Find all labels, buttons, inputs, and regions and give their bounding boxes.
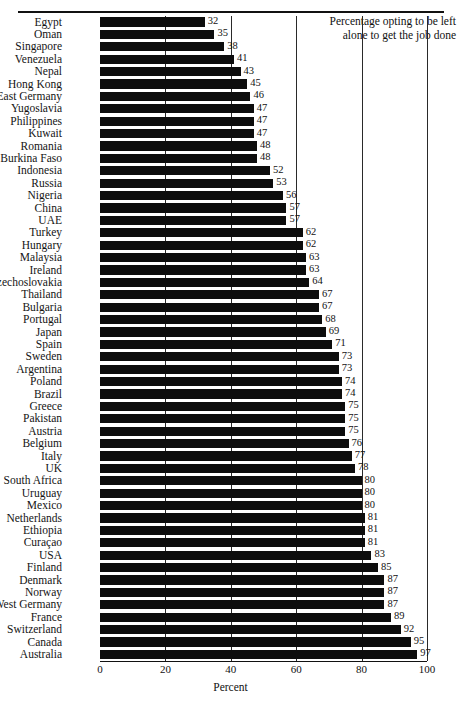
bar-row: Portugal68 [100, 314, 427, 326]
bar [100, 650, 417, 659]
category-label: Australia [0, 648, 62, 660]
category-label: Switzerland [0, 623, 62, 635]
bar-row: Egypt32 [100, 16, 427, 28]
bar-row: Argentina73 [100, 363, 427, 375]
bar-value-label: 74 [342, 375, 356, 387]
bar-row: Hungary62 [100, 239, 427, 251]
bar-value-label: 56 [283, 189, 297, 201]
category-label: Thailand [0, 288, 62, 300]
category-label: East Germany [0, 90, 62, 102]
bar [100, 129, 254, 138]
bar-value-label: 67 [319, 300, 333, 312]
bar [100, 79, 247, 88]
bar-value-label: 46 [250, 89, 264, 101]
bar-value-label: 48 [257, 151, 271, 163]
bar-row: Indonesia52 [100, 165, 427, 177]
bar-row: Belgium76 [100, 438, 427, 450]
category-label: Philippines [0, 115, 62, 127]
bar-row: UK78 [100, 462, 427, 474]
category-label: Finland [0, 561, 62, 573]
category-label: Italy [0, 450, 62, 462]
bar [100, 253, 306, 262]
bar [100, 17, 205, 26]
bar [100, 637, 411, 646]
category-label: Poland [0, 375, 62, 387]
bar-value-label: 83 [371, 548, 385, 560]
bar [100, 625, 401, 634]
bar-value-label: 41 [234, 52, 248, 64]
category-label: Sweden [0, 350, 62, 362]
bar [100, 303, 319, 312]
bar [100, 377, 342, 386]
plot-area: Egypt32Oman35Singapore38Venezuela41Nepal… [100, 16, 427, 661]
bar-value-label: 73 [339, 362, 353, 374]
category-label: Austria [0, 425, 62, 437]
bar-value-label: 64 [309, 275, 323, 287]
bar-row: Nigeria56 [100, 190, 427, 202]
bar-value-label: 38 [224, 40, 238, 52]
bar [100, 92, 250, 101]
bar-value-label: 80 [362, 486, 376, 498]
category-label: Venezuela [0, 53, 62, 65]
bar-row: China57 [100, 202, 427, 214]
bar-row: Australia97 [100, 648, 427, 660]
bar-value-label: 71 [332, 337, 346, 349]
category-label: Hungary [0, 239, 62, 251]
bar-value-label: 67 [319, 288, 333, 300]
category-label: Denmark [0, 574, 62, 586]
bar [100, 265, 306, 274]
bar-value-label: 57 [286, 201, 300, 213]
bar-row: Malaysia63 [100, 252, 427, 264]
category-label: Czechoslovakia [0, 276, 62, 288]
category-label: Nigeria [0, 189, 62, 201]
x-tick-60: 60 [291, 663, 302, 675]
bar [100, 327, 326, 336]
x-tick-80: 80 [356, 663, 367, 675]
category-label: South Africa [0, 474, 62, 486]
x-tick-20: 20 [160, 663, 171, 675]
category-label: Netherlands [0, 512, 62, 524]
category-label: Argentina [0, 363, 62, 375]
bar-row: West Germany87 [100, 599, 427, 611]
bar-value-label: 75 [345, 424, 359, 436]
bar-value-label: 47 [254, 102, 268, 114]
category-label: Brazil [0, 388, 62, 400]
bar-value-label: 62 [303, 226, 317, 238]
bar-value-label: 76 [349, 437, 363, 449]
bar-value-label: 80 [362, 499, 376, 511]
bar-value-label: 73 [339, 350, 353, 362]
bar-value-label: 32 [205, 15, 219, 27]
bar [100, 315, 322, 324]
category-label: Mexico [0, 499, 62, 511]
bar-value-label: 97 [417, 647, 431, 659]
category-label: Canada [0, 636, 62, 648]
category-label: Hong Kong [0, 78, 62, 90]
category-label: Ethiopia [0, 524, 62, 536]
x-axis-line [100, 661, 427, 662]
bar-value-label: 62 [303, 238, 317, 250]
category-label: China [0, 202, 62, 214]
bar [100, 501, 362, 510]
bar [100, 427, 345, 436]
category-label: Yugoslavia [0, 102, 62, 114]
category-label: France [0, 611, 62, 623]
bar [100, 513, 365, 522]
bar-value-label: 95 [411, 635, 425, 647]
bar-row: Turkey62 [100, 227, 427, 239]
bar [100, 613, 391, 622]
x-axis-label: Percent [0, 681, 461, 693]
bar-row: Bulgaria67 [100, 301, 427, 313]
bar-row: Ireland63 [100, 264, 427, 276]
bar [100, 526, 365, 535]
category-label: Japan [0, 326, 62, 338]
category-label: Belgium [0, 437, 62, 449]
category-label: Singapore [0, 40, 62, 52]
bar-value-label: 48 [257, 139, 271, 151]
bar-row: Nepal43 [100, 66, 427, 78]
bar-row: Pakistan75 [100, 413, 427, 425]
bar [100, 476, 362, 485]
bar [100, 451, 352, 460]
category-label: USA [0, 549, 62, 561]
top-rule [18, 11, 444, 13]
category-label: Greece [0, 400, 62, 412]
